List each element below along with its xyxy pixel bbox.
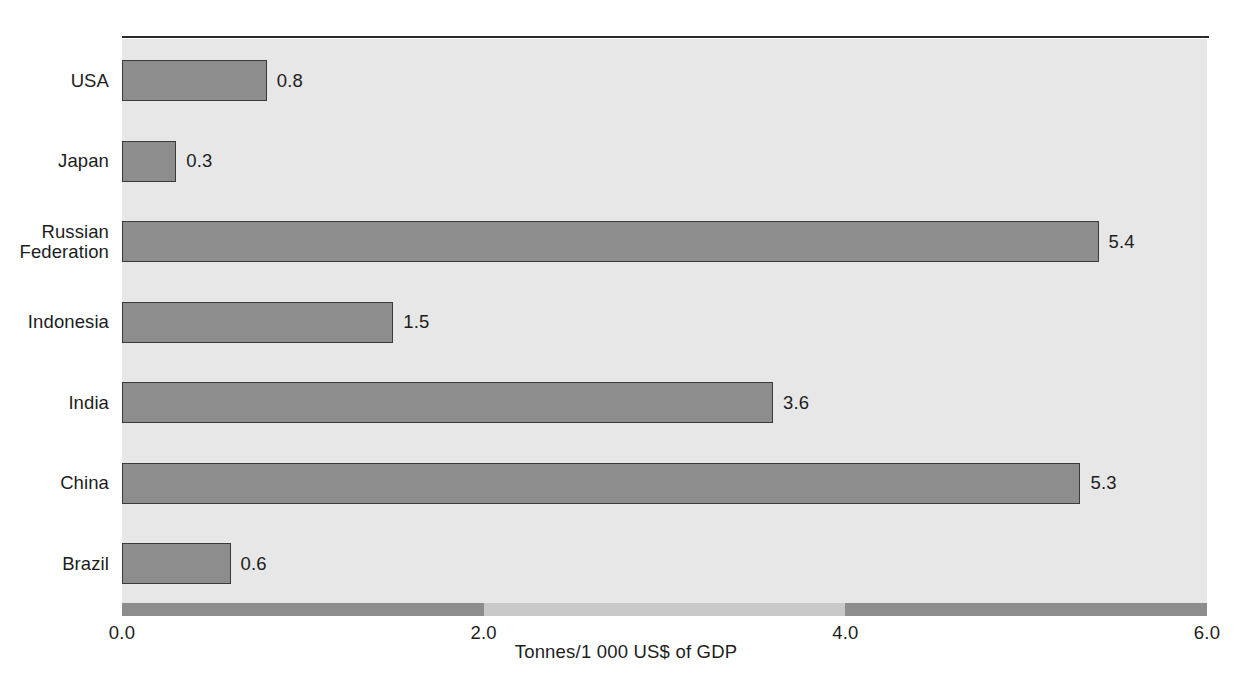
bar-row: Indonesia1.5 [0, 302, 1252, 343]
bar-value-label: 0.3 [186, 150, 212, 172]
bar [122, 463, 1080, 504]
bar [122, 302, 393, 343]
bar-row: India3.6 [0, 382, 1252, 423]
category-label: Indonesia [0, 312, 109, 332]
category-label: USA [0, 71, 109, 91]
bar-value-label: 5.3 [1090, 472, 1116, 494]
category-label: India [0, 393, 109, 413]
x-axis-title: Tonnes/1 000 US$ of GDP [0, 641, 1252, 663]
bar-value-label: 0.8 [277, 70, 303, 92]
category-label: Japan [0, 151, 109, 171]
bar-chart-figure: USA0.8Japan0.3Russian Federation5.4Indon… [0, 0, 1252, 694]
plot-top-border [122, 36, 1209, 38]
bar [122, 221, 1099, 262]
x-axis-strip [122, 603, 1207, 616]
category-label: Russian Federation [0, 222, 109, 262]
bar [122, 382, 773, 423]
bar-value-label: 3.6 [783, 392, 809, 414]
bar [122, 60, 267, 101]
axis-strip-segment [845, 603, 1207, 616]
bar [122, 543, 231, 584]
category-label: Brazil [0, 554, 109, 574]
bar-row: Russian Federation5.4 [0, 221, 1252, 262]
axis-strip-segment [122, 603, 484, 616]
bar-value-label: 0.6 [241, 553, 267, 575]
bar-value-label: 1.5 [403, 311, 429, 333]
bar-row: USA0.8 [0, 60, 1252, 101]
category-label: China [0, 473, 109, 493]
bar-row: China5.3 [0, 463, 1252, 504]
bar-row: Japan0.3 [0, 141, 1252, 182]
axis-strip-segment [484, 603, 846, 616]
bar-value-label: 5.4 [1109, 231, 1135, 253]
bar-row: Brazil0.6 [0, 543, 1252, 584]
bar [122, 141, 176, 182]
